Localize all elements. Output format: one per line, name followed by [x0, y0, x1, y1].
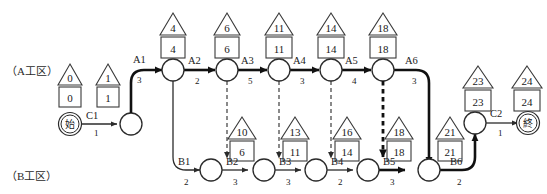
triangle-value: 13: [290, 126, 302, 138]
activity-label-b4: B4: [331, 156, 344, 167]
activity-label-a5: A5: [345, 55, 358, 66]
marker-b2-node: 10 6: [228, 117, 256, 161]
triangle-value: 23: [473, 75, 485, 87]
duration-label-b6: 2: [457, 177, 462, 187]
activity-label-b2: B2: [226, 156, 238, 167]
node-a3-end[interactable]: [268, 59, 290, 81]
node-b2-end[interactable]: [253, 159, 275, 181]
square-value: 6: [224, 43, 230, 55]
square-value: 24: [522, 96, 534, 108]
marker-a5-node: 18 18: [369, 13, 397, 58]
node-c2-start[interactable]: [464, 112, 486, 134]
node-a1-end[interactable]: [162, 59, 184, 81]
triangle-value: 6: [224, 22, 230, 34]
network-diagram-svg: （A工区） （B工区） 0 0 始 1 1 C1 1 A1 3 4 4 6 6: [0, 0, 547, 194]
activity-label-c1: C1: [86, 110, 98, 121]
triangle-value: 1: [105, 72, 111, 84]
end-node-label: 終: [523, 117, 533, 129]
triangle-value: 18: [378, 22, 390, 34]
triangle-value: 0: [67, 72, 73, 84]
triangle-value: 14: [326, 22, 338, 34]
marker-a2-node: 6 6: [214, 13, 240, 58]
square-value: 11: [274, 43, 285, 55]
duration-label-a5: 4: [352, 76, 357, 86]
node-b4-end[interactable]: [357, 159, 379, 181]
marker-b5-node: 18 18: [385, 117, 413, 161]
triangle-value: 11: [274, 22, 285, 34]
activity-label-a3: A3: [241, 55, 254, 66]
activity-label-b3: B3: [279, 156, 291, 167]
duration-label-c1: 1: [94, 128, 99, 138]
zone-label-a: （A工区）: [6, 65, 58, 77]
activity-label-b1: B1: [178, 156, 190, 167]
marker-b4-node: 16 14: [333, 117, 361, 161]
marker-c2-node: 23 23: [463, 66, 493, 111]
activity-label-c2: C2: [490, 108, 502, 119]
marker-start: 0 0: [58, 64, 82, 107]
duration-label-a6: 3: [412, 76, 417, 86]
triangle-value: 24: [522, 75, 534, 87]
activity-label-a4: A4: [293, 55, 307, 66]
node-c1-end[interactable]: [120, 113, 142, 135]
duration-label-b4: 2: [338, 177, 343, 187]
node-end-terminal[interactable]: 終: [517, 112, 540, 135]
square-value: 23: [473, 96, 485, 108]
node-a2-end[interactable]: [216, 59, 238, 81]
node-a4-end[interactable]: [320, 59, 342, 81]
duration-label-b2: 3: [233, 177, 238, 187]
activity-label-b5: B5: [383, 156, 395, 167]
triangle-value: 21: [445, 126, 456, 138]
start-node-label: 始: [65, 118, 75, 130]
edge-a1: [131, 70, 162, 113]
node-b5-end[interactable]: [418, 159, 440, 181]
duration-label-c2: 1: [498, 128, 503, 138]
marker-b6-node: 21 21: [436, 117, 464, 161]
duration-label-a4: 3: [300, 76, 305, 86]
triangle-value: 18: [394, 126, 406, 138]
marker-a1-node: 4 4: [160, 13, 186, 58]
duration-label-b1: 2: [184, 177, 189, 187]
triangle-value: 16: [342, 126, 354, 138]
node-start-terminal[interactable]: 始: [59, 113, 82, 136]
activity-label-a1: A1: [133, 54, 146, 65]
node-b1-end[interactable]: [200, 159, 222, 181]
marker-a3-node: 11 11: [265, 13, 293, 58]
square-value: 1: [105, 92, 111, 104]
node-b3-end[interactable]: [305, 159, 327, 181]
duration-label-a1: 3: [137, 75, 142, 85]
marker-c1-end: 1 1: [96, 64, 120, 107]
square-value: 14: [326, 43, 338, 55]
square-value: 4: [170, 43, 176, 55]
node-a5-end[interactable]: [372, 59, 394, 81]
activity-label-a2: A2: [188, 55, 201, 66]
duration-label-b3: 3: [286, 177, 291, 187]
activity-label-a6: A6: [405, 55, 418, 66]
zone-label-b: （B工区）: [6, 170, 57, 182]
triangle-value: 10: [237, 126, 249, 138]
duration-label-a2: 2: [195, 76, 200, 86]
duration-label-b5: 3: [390, 177, 395, 187]
triangle-value: 4: [170, 22, 176, 34]
marker-end-node: 24 24: [512, 66, 542, 111]
square-value: 11: [290, 146, 301, 158]
activity-label-b6: B6: [450, 156, 462, 167]
marker-b3-node: 13 11: [281, 117, 309, 161]
square-value: 18: [378, 43, 390, 55]
marker-a4-node: 14 14: [317, 13, 345, 58]
square-value: 6: [239, 146, 245, 158]
square-value: 0: [67, 92, 73, 104]
duration-label-a3: 5: [248, 76, 253, 86]
network-diagram-canvas: （A工区） （B工区） 0 0 始 1 1 C1 1 A1 3 4 4 6 6: [0, 0, 547, 194]
